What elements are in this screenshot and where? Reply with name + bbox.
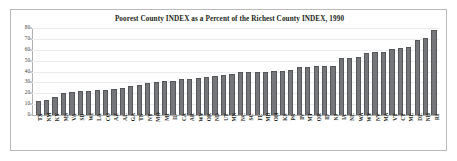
chart-frame: Poorest County INDEX as a Percent of the…	[10, 9, 447, 151]
bar[interactable]	[356, 57, 361, 115]
bar[interactable]	[305, 67, 310, 115]
bar[interactable]	[255, 72, 260, 116]
x-label-slot: RI	[431, 116, 439, 144]
bar[interactable]	[103, 90, 108, 115]
y-axis-tick-mark	[30, 71, 32, 72]
bar-slot	[413, 28, 421, 115]
bar[interactable]	[204, 77, 209, 115]
bar[interactable]	[120, 88, 125, 115]
bar[interactable]	[170, 81, 175, 115]
bar[interactable]	[297, 67, 302, 115]
bar-slot	[110, 28, 118, 115]
bar[interactable]	[229, 74, 234, 115]
chart-figure: Poorest County INDEX as a Percent of the…	[0, 0, 457, 161]
bar-series	[33, 28, 439, 115]
bar[interactable]	[246, 72, 251, 115]
bar-slot	[51, 28, 59, 115]
x-label-slot: UT	[220, 116, 228, 144]
bar[interactable]	[271, 71, 276, 115]
y-axis-tick-mark	[30, 49, 32, 50]
bar[interactable]	[330, 66, 335, 115]
x-label-slot: GA	[127, 116, 135, 144]
bar-slot	[152, 28, 160, 115]
bar-slot	[245, 28, 253, 115]
x-label-slot: PA	[287, 116, 295, 144]
x-label-slot: AZ	[110, 116, 118, 144]
bar-slot	[405, 28, 413, 115]
x-label-slot: NM	[42, 116, 50, 144]
y-axis-tick-mark	[30, 82, 32, 83]
x-label-slot: WV	[194, 116, 202, 144]
x-label-slot: ME	[405, 116, 413, 144]
x-label-slot: SD	[76, 116, 84, 144]
x-label-slot: OR	[312, 116, 320, 144]
bar-slot	[371, 28, 379, 115]
bar[interactable]	[111, 89, 116, 115]
bar[interactable]	[364, 53, 369, 115]
bar-slot	[312, 28, 320, 115]
bar[interactable]	[263, 72, 268, 116]
bar[interactable]	[61, 93, 66, 115]
bar[interactable]	[415, 40, 420, 115]
bar[interactable]	[398, 48, 403, 115]
bar-slot	[194, 28, 202, 115]
x-label-slot: IN	[296, 116, 304, 144]
bar[interactable]	[162, 81, 167, 115]
bar-slot	[430, 28, 438, 115]
x-label-slot: IL	[169, 116, 177, 144]
bar[interactable]	[128, 86, 133, 115]
y-axis-tick-mark	[30, 104, 32, 105]
bar[interactable]	[179, 79, 184, 115]
x-label-slot: MI	[161, 116, 169, 144]
bar-slot	[346, 28, 354, 115]
x-label-slot: SC	[245, 116, 253, 144]
x-label-slot: NJ	[329, 116, 337, 144]
bar[interactable]	[86, 91, 91, 115]
bar-slot	[186, 28, 194, 115]
bar-slot	[85, 28, 93, 115]
bar[interactable]	[187, 79, 192, 115]
x-label-slot: NV	[372, 116, 380, 144]
bar-slot	[202, 28, 210, 115]
bar[interactable]	[389, 49, 394, 115]
x-label-slot: MN	[228, 116, 236, 144]
x-label-slot: AR	[186, 116, 194, 144]
bar-slot	[160, 28, 168, 115]
bar[interactable]	[238, 72, 243, 115]
bar[interactable]	[381, 52, 386, 115]
x-label-slot: KS	[279, 116, 287, 144]
bar[interactable]	[137, 85, 142, 115]
bar[interactable]	[314, 66, 319, 115]
bar-slot	[278, 28, 286, 115]
x-label-slot: LA	[93, 116, 101, 144]
bar[interactable]	[212, 76, 217, 115]
bar[interactable]	[288, 70, 293, 115]
bar[interactable]	[78, 91, 83, 115]
bar[interactable]	[154, 82, 159, 115]
x-label-slot: NE	[346, 116, 354, 144]
x-label-slot: OK	[203, 116, 211, 144]
x-label-slot: CT	[397, 116, 405, 144]
bar[interactable]	[196, 78, 201, 115]
y-axis-tick-mark	[30, 93, 32, 94]
bar[interactable]	[406, 47, 411, 115]
bar[interactable]	[431, 30, 436, 115]
bar[interactable]	[339, 58, 344, 115]
bar[interactable]	[95, 90, 100, 115]
bar[interactable]	[372, 52, 377, 115]
bar-slot	[329, 28, 337, 115]
bar[interactable]	[322, 66, 327, 115]
bar[interactable]	[423, 38, 428, 115]
bar-slot	[337, 28, 345, 115]
x-label-slot: ND	[211, 116, 219, 144]
bar[interactable]	[145, 83, 150, 115]
bar[interactable]	[69, 92, 74, 115]
x-axis-labels: TXNMKYMSVASDWILACOAZALGATNNYMOMIILCAARWV…	[33, 116, 440, 144]
bar[interactable]	[347, 58, 352, 115]
y-axis-tick-mark	[30, 38, 32, 39]
bar-slot	[135, 28, 143, 115]
bar[interactable]	[221, 75, 226, 115]
bar[interactable]	[280, 71, 285, 115]
x-label-slot: MT	[304, 116, 312, 144]
bar-slot	[320, 28, 328, 115]
